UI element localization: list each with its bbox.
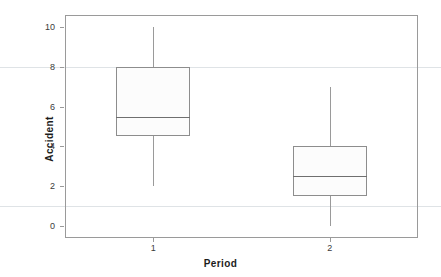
x-tick-label: 1 (151, 243, 156, 253)
y-tick-label: 6 (33, 102, 55, 112)
box-rect (293, 146, 367, 196)
y-tick-mark (60, 226, 64, 227)
whisker-upper (330, 87, 331, 147)
y-tick-label: 4 (33, 141, 55, 151)
y-tick-label: 8 (33, 62, 55, 72)
y-tick-label: 2 (33, 181, 55, 191)
x-tick-mark (153, 238, 154, 242)
y-tick-label: 0 (33, 221, 55, 231)
boxplot-chart: Accident 0246810 12 Period (0, 0, 441, 277)
x-axis-title: Period (0, 258, 441, 269)
whisker-lower (330, 196, 331, 226)
y-tick-mark (60, 107, 64, 108)
y-tick-label: 10 (33, 22, 55, 32)
median-line (293, 176, 367, 177)
median-line (116, 117, 190, 118)
y-tick-mark (60, 27, 64, 28)
box-rect (116, 67, 190, 137)
y-tick-mark (60, 186, 64, 187)
whisker-upper (153, 27, 154, 67)
whisker-lower (153, 136, 154, 186)
x-tick-label: 2 (327, 243, 332, 253)
y-axis-title: Accident (44, 116, 55, 161)
x-tick-mark (330, 238, 331, 242)
y-tick-mark (60, 146, 64, 147)
y-tick-mark (60, 67, 64, 68)
